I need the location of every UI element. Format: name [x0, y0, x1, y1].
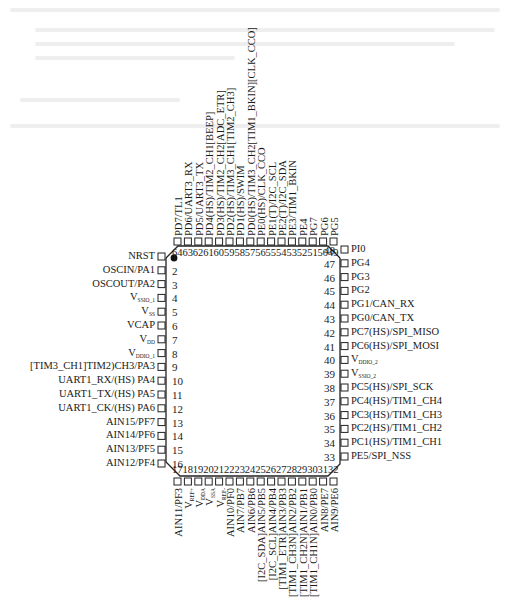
pin-label: UART1_CK/(HS) PA6	[58, 402, 155, 414]
pin-pad	[341, 315, 348, 322]
pin-pad	[158, 419, 165, 426]
pin-pad	[158, 253, 165, 260]
pin-label: PE5/SPI_NSS	[351, 450, 411, 462]
pin-number: 52	[297, 247, 308, 259]
pin-number: 53	[286, 247, 297, 259]
pin-label: PC6(HS)/SPI_MOSI	[351, 340, 439, 352]
pin-label: VSSIO_1	[130, 291, 155, 306]
pin-pad	[158, 363, 165, 370]
pin-pad	[341, 370, 348, 377]
pin-pad	[341, 287, 348, 294]
pin-number: 5	[172, 306, 178, 318]
pin-pad	[341, 356, 348, 363]
pin-pad	[158, 350, 165, 357]
pin-pad	[268, 478, 275, 485]
pin-number: 4	[172, 292, 178, 304]
pin-pad	[158, 308, 165, 315]
pin-number: 47	[324, 258, 335, 270]
pin-label: VDDIO_1	[128, 347, 155, 362]
pin-number: 11	[172, 389, 183, 401]
pin-label: PC7(HS)/SPI_MISO	[351, 326, 439, 338]
pin-label: PC3(HS)/TIM1_CH3	[351, 409, 442, 421]
pin-label: UART1_TX/(HS) PA5	[59, 388, 155, 400]
pin-pad	[205, 478, 212, 485]
pin-pad	[278, 478, 285, 485]
pin-number: 44	[324, 299, 335, 311]
pin-number: 41	[324, 341, 335, 353]
pin-pad	[158, 294, 165, 301]
pin-label: PG2	[351, 284, 370, 296]
pin-pad	[158, 446, 165, 453]
pin-label: AIN12/PF4	[106, 457, 155, 469]
pin-number: 20	[203, 464, 214, 476]
pin-pad	[299, 478, 306, 485]
pin-pad	[341, 412, 348, 419]
pin-label: AIN9/PE6	[329, 488, 341, 532]
pin-number: 27	[276, 464, 287, 476]
pin-label: PG1/CAN_RX	[351, 298, 415, 310]
pin-pad	[184, 238, 191, 245]
pin-label: VSS	[141, 305, 155, 320]
pin-pad	[257, 238, 264, 245]
pin-number: 34	[324, 437, 335, 449]
pin-number: 57	[245, 247, 256, 259]
pin-pad	[341, 439, 348, 446]
pin-label: NRST	[128, 250, 155, 262]
pin-label: [TIM3_CH1]TIM2)CH3/PA3	[30, 360, 155, 372]
pin-pad	[288, 478, 295, 485]
pin-pad	[320, 478, 327, 485]
pin-pad	[158, 405, 165, 412]
pin-label: AIN15/PF7	[106, 416, 155, 428]
pin-pad	[268, 238, 275, 245]
pin-number: 13	[172, 417, 183, 429]
pin-label: AIN13/PF5	[106, 443, 155, 455]
pin-number: 56	[255, 247, 266, 259]
pin-label: AIN14/PF6	[106, 429, 155, 441]
pin-label: VCAP	[127, 319, 155, 331]
pin-pad	[158, 391, 165, 398]
pin-number: 50	[318, 247, 329, 259]
pin-pad	[174, 478, 181, 485]
pin-pad	[330, 478, 337, 485]
pin-number: 28	[286, 464, 297, 476]
pin-number: 23	[234, 464, 245, 476]
pin-label: PG3	[351, 271, 370, 283]
pin-number: 8	[172, 348, 178, 360]
pin-number: 39	[324, 368, 335, 380]
pin-number: 15	[172, 444, 183, 456]
pin-number: 61	[203, 247, 214, 259]
pin-number: 29	[297, 464, 308, 476]
pin-number: 59	[224, 247, 235, 259]
pin-pad	[341, 246, 348, 253]
pin-pad	[195, 238, 202, 245]
pin-label: PC4(HS)/TIM1_CH4	[351, 395, 442, 407]
pin-pad	[158, 336, 165, 343]
pin-pad	[309, 478, 316, 485]
pin-number: 64	[172, 247, 183, 259]
pin-number: 51	[307, 247, 318, 259]
pin-pad	[158, 377, 165, 384]
pin-label: PC1(HS)/TIM1_CH1	[351, 436, 442, 448]
pin-number: 21	[214, 464, 225, 476]
pin-pad	[195, 478, 202, 485]
pin-pad	[236, 478, 243, 485]
pin-pad	[158, 322, 165, 329]
pin-number: 55	[266, 247, 277, 259]
pin-number: 62	[193, 247, 204, 259]
pin-number: 49	[328, 247, 339, 259]
pin-number: 31	[318, 464, 329, 476]
pin-number: 17	[172, 464, 183, 476]
pin-number: 25	[255, 464, 266, 476]
pin-pad	[158, 267, 165, 274]
pin-label: VSSIO_2	[351, 367, 376, 382]
pin-number: 7	[172, 334, 178, 346]
pin-pad	[341, 274, 348, 281]
pin-number: 36	[324, 410, 335, 422]
pin-number: 58	[234, 247, 245, 259]
pin-number: 32	[328, 464, 339, 476]
pin-pad	[174, 238, 181, 245]
pin-pad	[226, 478, 233, 485]
pin-label: PG5	[329, 217, 341, 236]
pin-pad	[158, 432, 165, 439]
pin-number: 14	[172, 430, 183, 442]
